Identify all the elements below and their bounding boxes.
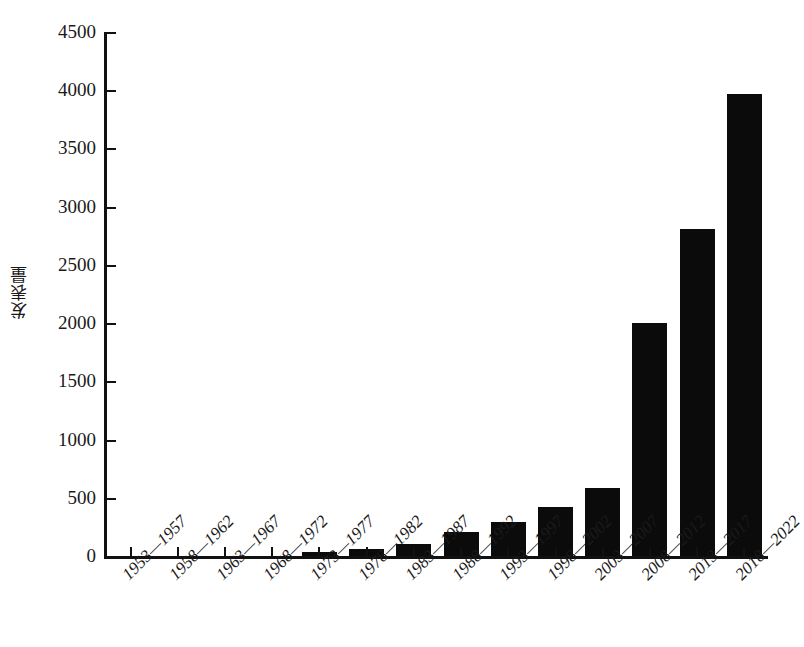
y-axis-tick-label: 3500	[20, 138, 96, 157]
bar	[727, 94, 762, 556]
x-axis-tick	[224, 547, 226, 556]
y-axis-tick	[107, 556, 116, 558]
y-axis-title: 发表量	[4, 232, 32, 352]
y-axis-tick-label: 1000	[20, 430, 96, 449]
y-axis-tick	[107, 90, 116, 92]
y-axis-tick-label: 3000	[20, 197, 96, 216]
x-axis-tick	[413, 547, 415, 556]
y-axis-tick-label: 4000	[20, 80, 96, 99]
y-axis-tick	[107, 323, 116, 325]
x-axis-tick	[130, 547, 132, 556]
y-axis-tick-label: 2000	[20, 313, 96, 332]
y-axis-tick	[107, 381, 116, 383]
top-caption-sliver	[104, 0, 264, 7]
x-axis-tick	[366, 547, 368, 556]
y-axis-tick	[107, 32, 116, 34]
y-axis-tick-label: 500	[20, 488, 96, 507]
y-axis-line	[104, 32, 107, 559]
x-axis-tick	[602, 547, 604, 556]
y-axis-tick-label: 1500	[20, 371, 96, 390]
x-axis-tick	[271, 547, 273, 556]
y-axis-tick	[107, 148, 116, 150]
x-axis-tick	[555, 547, 557, 556]
y-axis-tick	[107, 498, 116, 500]
y-axis-tick-label: 0	[20, 546, 96, 565]
y-axis-tick-label: 4500	[20, 22, 96, 41]
x-axis-tick	[177, 547, 179, 556]
y-axis-tick-label: 2500	[20, 255, 96, 274]
x-axis-tick	[649, 547, 651, 556]
plot-area	[104, 32, 768, 559]
y-axis-tick	[107, 440, 116, 442]
y-axis-tick	[107, 265, 116, 267]
y-axis-tick	[107, 207, 116, 209]
x-axis-tick	[696, 547, 698, 556]
x-axis-tick	[460, 547, 462, 556]
bar	[680, 229, 715, 556]
